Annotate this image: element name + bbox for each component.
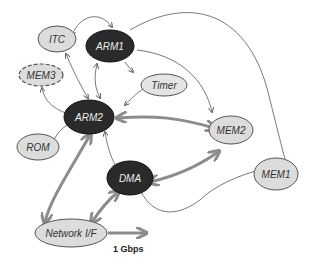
node-label: ROM <box>26 142 50 153</box>
node-network-if[interactable]: Network I/F <box>35 219 107 247</box>
node-arm1[interactable]: ARM1 <box>86 30 134 62</box>
node-itc[interactable]: ITC <box>38 26 76 52</box>
node-label: MEM1 <box>262 169 291 180</box>
node-mem3[interactable]: MEM3 <box>19 64 63 86</box>
node-label: Timer <box>151 80 177 91</box>
node-mem1[interactable]: MEM1 <box>254 158 298 190</box>
node-label: MEM2 <box>217 125 246 136</box>
node-label: Network I/F <box>45 228 97 239</box>
node-label: MEM3 <box>27 70 56 81</box>
node-label: DMA <box>119 173 142 184</box>
node-dma[interactable]: DMA <box>107 161 153 195</box>
node-label: ARM1 <box>95 41 124 52</box>
node-rom[interactable]: ROM <box>17 134 59 160</box>
node-mem2[interactable]: MEM2 <box>209 116 253 144</box>
node-label: ARM2 <box>74 112 103 123</box>
node-arm2[interactable]: ARM2 <box>64 100 114 134</box>
node-timer[interactable]: Timer <box>141 74 187 96</box>
bandwidth-label: 1 Gbps <box>113 244 144 254</box>
diagram-canvas: ITC ARM1 MEM3 Timer ARM2 MEM2 ROM DMA ME… <box>0 0 313 269</box>
node-label: ITC <box>49 34 66 45</box>
